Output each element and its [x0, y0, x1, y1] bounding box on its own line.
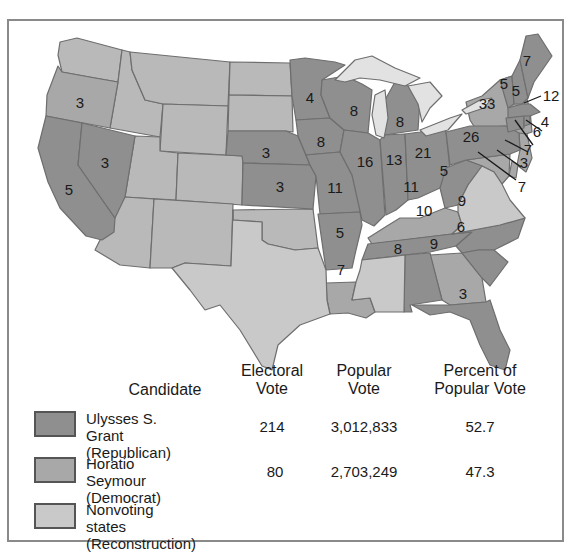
- label-florida: 3: [459, 285, 467, 302]
- label-new-york: 33: [479, 95, 496, 112]
- label-delaware: 3: [520, 154, 528, 171]
- label-alabama: 8: [394, 240, 402, 257]
- header-electoral-line2: Vote: [232, 380, 312, 398]
- state-florida: [412, 300, 510, 370]
- label-california: 5: [65, 181, 73, 198]
- label-connecticut: 6: [533, 123, 541, 140]
- state-wyoming: [160, 104, 228, 155]
- label-pennsylvania: 26: [463, 128, 480, 145]
- label-tennessee: 10: [416, 202, 433, 219]
- electoral-vote-grant: 214: [232, 418, 312, 436]
- header-popular-vote: Popular Vote: [324, 362, 404, 398]
- label-vermont: 5: [500, 75, 508, 92]
- header-candidate: Candidate: [110, 381, 220, 399]
- state-dakota-north: [229, 62, 292, 96]
- label-new-hampshire: 5: [512, 82, 520, 99]
- electoral-vote-seymour: 80: [232, 463, 312, 481]
- candidate-nonvoting: Nonvoting states (Reconstruction): [86, 501, 196, 552]
- lake-michigan: [372, 90, 388, 138]
- popular-vote-seymour: 2,703,249: [304, 463, 424, 481]
- label-oregon: 3: [76, 94, 84, 111]
- header-percent-line2: Popular Vote: [415, 380, 545, 398]
- label-rhode-island: 4: [541, 113, 549, 130]
- label-missouri: 11: [327, 179, 343, 196]
- label-maine: 7: [523, 52, 531, 69]
- state-new-mexico: [150, 199, 233, 268]
- label-indiana: 13: [386, 151, 403, 168]
- lake-superior: [335, 56, 420, 86]
- candidate-seymour: Horatio Seymour (Democrat): [86, 455, 161, 506]
- label-maryland: 7: [518, 178, 526, 195]
- header-percent-popular-vote: Percent of Popular Vote: [415, 362, 545, 398]
- percent-seymour: 47.3: [415, 463, 545, 481]
- header-popular-line2: Vote: [324, 380, 404, 398]
- state-montana: [130, 52, 230, 106]
- header-percent-line1: Percent of: [415, 362, 545, 380]
- label-north-carolina: 9: [458, 192, 466, 209]
- header-electoral-line1: Electoral: [232, 362, 312, 380]
- candidate-name: Ulysses S. Grant: [86, 410, 171, 444]
- header-popular-line1: Popular: [324, 362, 404, 380]
- label-georgia: 9: [430, 235, 438, 252]
- popular-vote-grant: 3,012,833: [304, 418, 424, 436]
- label-massachusetts: 12: [543, 87, 560, 104]
- label-ohio: 21: [415, 144, 432, 161]
- category-name: Nonvoting states: [86, 501, 196, 535]
- label-wisconsin: 8: [350, 102, 358, 119]
- label-michigan: 8: [396, 113, 404, 130]
- label-west-virginia: 5: [440, 162, 448, 179]
- label-south-carolina: 6: [457, 218, 465, 235]
- state-dakota-south: [228, 95, 293, 132]
- candidate-grant: Ulysses S. Grant (Republican): [86, 410, 171, 461]
- label-nebraska: 3: [262, 144, 270, 161]
- label-iowa: 8: [317, 133, 325, 150]
- legend-swatch-republican: [34, 411, 76, 437]
- label-illinois: 16: [357, 153, 374, 170]
- label-nevada: 3: [101, 154, 109, 171]
- category-note: (Reconstruction): [86, 535, 196, 552]
- label-arkansas: 5: [336, 224, 344, 241]
- label-kansas: 3: [276, 178, 284, 195]
- percent-grant: 52.7: [415, 418, 545, 436]
- state-colorado: [176, 153, 243, 205]
- candidate-name: Horatio Seymour: [86, 455, 161, 489]
- legend-swatch-democrat: [34, 457, 76, 483]
- label-louisiana: 7: [337, 261, 345, 278]
- label-kentucky: 11: [403, 178, 419, 195]
- legend-swatch-nonvoting: [34, 503, 76, 529]
- label-minnesota: 4: [306, 89, 314, 106]
- header-electoral-vote: Electoral Vote: [232, 362, 312, 398]
